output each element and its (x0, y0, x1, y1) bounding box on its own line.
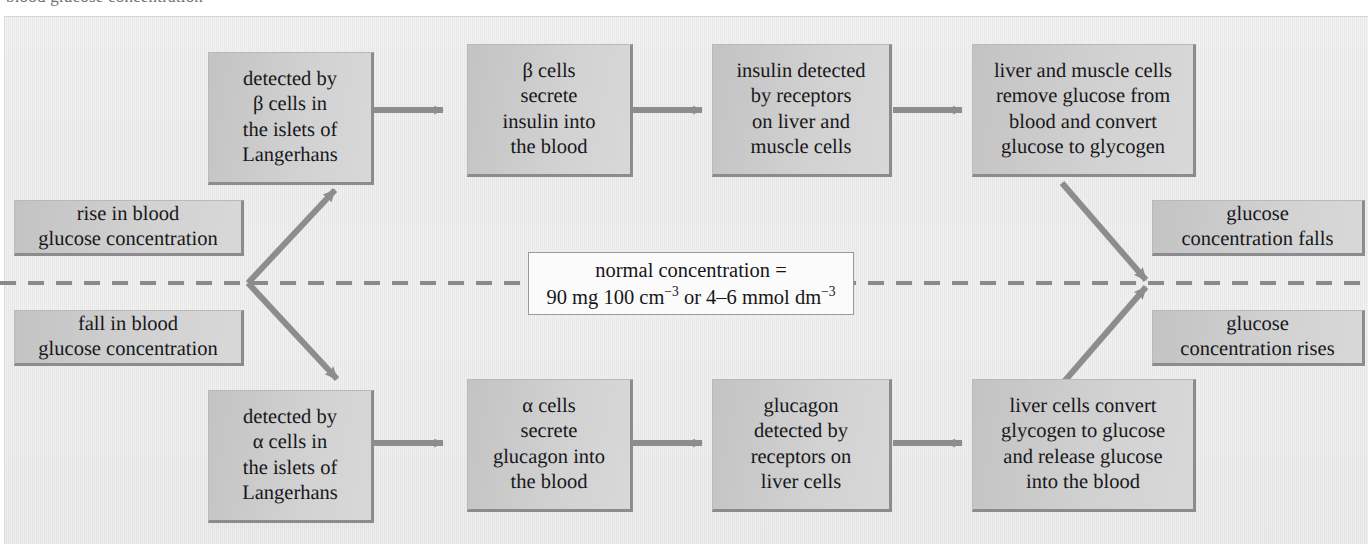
rise-line-1: rise in blood (77, 203, 180, 225)
rise-in-blood-glucose-box: rise in blood glucose concentration (14, 200, 244, 256)
arrow-lower-to-outcome (1062, 287, 1146, 384)
insulin-detect-line-1: insulin detected (736, 60, 865, 82)
beta-detect-line-2: β cells in (253, 93, 327, 115)
convert-glycogen-line-3: and release glucose (1003, 446, 1162, 468)
glucagon-detect-line-3: receptors on (751, 446, 852, 468)
remove-glucose-line-4: glucose to glycogen (1001, 136, 1165, 158)
alpha-secrete-line-1: α cells (522, 395, 575, 417)
glucagon-detect-line-1: glucagon (763, 395, 838, 417)
beta-secrete-line-1: β cells (522, 60, 575, 82)
fall-in-blood-glucose-box: fall in blood glucose concentration (14, 310, 244, 366)
arrow-rise-to-beta-detection (248, 190, 335, 283)
remove-glucose-line-2: remove glucose from (996, 85, 1170, 107)
falls-line-2: concentration falls (1182, 228, 1334, 250)
rises-line-1: glucose (1226, 313, 1289, 335)
beta-secrete-line-3: insulin into (503, 111, 596, 133)
step-detected-by-alpha-cells: detected by α cells in the islets of Lan… (208, 390, 374, 523)
step-detected-by-beta-cells: detected by β cells in the islets of Lan… (208, 52, 374, 185)
diagram-stage: rise in blood glucose concentration dete… (0, 0, 1372, 548)
normal-value-mmol-exponent: −3 (821, 284, 835, 299)
alpha-detect-line-1: detected by (243, 406, 337, 428)
glucagon-detect-line-2: detected by (754, 420, 848, 442)
glucose-concentration-falls-box: glucose concentration falls (1152, 200, 1365, 256)
step-cells-remove-glucose: liver and muscle cells remove glucose fr… (972, 44, 1196, 177)
normal-concentration-box: normal concentration = 90 mg 100 cm−3 or… (528, 252, 854, 315)
alpha-secrete-line-4: the blood (511, 471, 588, 493)
convert-glycogen-line-1: liver cells convert (1010, 395, 1157, 417)
alpha-detect-line-2: α cells in (253, 431, 328, 453)
insulin-detect-line-3: on liver and (752, 111, 850, 133)
beta-detect-line-3: the islets of (243, 119, 338, 141)
arrow-fall-to-alpha-detection (248, 283, 337, 379)
convert-glycogen-line-2: glycogen to glucose (1001, 420, 1165, 442)
glucose-concentration-rises-box: glucose concentration rises (1152, 310, 1365, 366)
normal-value-mg-exponent: −3 (664, 284, 678, 299)
beta-secrete-line-2: secrete (521, 85, 578, 107)
step-beta-cells-secrete-insulin: β cells secrete insulin into the blood (467, 44, 633, 177)
step-liver-cells-convert-glycogen: liver cells convert glycogen to glucose … (972, 379, 1196, 512)
fall-line-2: glucose concentration (38, 338, 217, 360)
alpha-secrete-line-2: secrete (521, 420, 578, 442)
arrow-upper-to-outcome (1062, 183, 1146, 280)
step-alpha-cells-secrete-glucagon: α cells secrete glucagon into the blood (467, 379, 633, 512)
convert-glycogen-line-4: into the blood (1026, 471, 1140, 493)
normal-value-mid: or 4–6 mmol dm (679, 286, 821, 308)
beta-detect-line-1: detected by (243, 68, 337, 90)
remove-glucose-line-3: blood and convert (1009, 111, 1157, 133)
step-glucagon-detected-by-receptors: glucagon detected by receptors on liver … (712, 379, 892, 512)
normal-value-mg-prefix: 90 mg 100 cm (546, 286, 664, 308)
insulin-detect-line-4: muscle cells (751, 136, 852, 158)
normal-line-1: normal concentration = (595, 259, 786, 281)
rises-line-2: concentration rises (1180, 338, 1334, 360)
alpha-detect-line-3: the islets of (243, 457, 338, 479)
step-insulin-detected-by-receptors: insulin detected by receptors on liver a… (712, 44, 892, 177)
fall-line-1: fall in blood (78, 313, 178, 335)
normal-line-2: 90 mg 100 cm−3 or 4–6 mmol dm−3 (546, 286, 835, 308)
alpha-secrete-line-3: glucagon into (493, 446, 605, 468)
insulin-detect-line-2: by receptors (751, 85, 852, 107)
remove-glucose-line-1: liver and muscle cells (994, 60, 1172, 82)
beta-detect-line-4: Langerhans (242, 144, 338, 166)
falls-line-1: glucose (1226, 203, 1289, 225)
figure-root: blood glucose concentration (0, 0, 1372, 548)
beta-secrete-line-4: the blood (511, 136, 588, 158)
glucagon-detect-line-4: liver cells (761, 471, 841, 493)
rise-line-2: glucose concentration (38, 228, 217, 250)
alpha-detect-line-4: Langerhans (242, 482, 338, 504)
